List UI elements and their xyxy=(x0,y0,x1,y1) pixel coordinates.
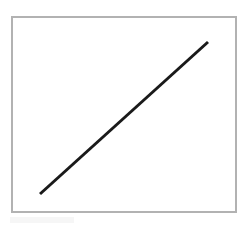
figure-root xyxy=(0,0,246,227)
compression-smudge xyxy=(10,217,74,223)
plot-border xyxy=(11,16,237,213)
